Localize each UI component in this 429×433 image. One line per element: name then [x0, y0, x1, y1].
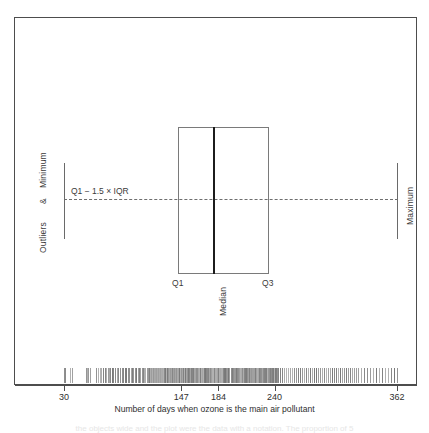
x-axis-ticklabel: 362: [389, 392, 404, 402]
rug-tick: [308, 368, 309, 383]
rug-tick: [280, 368, 281, 383]
x-axis-tick: [275, 385, 276, 391]
rug-tick: [314, 368, 315, 383]
rug-tick: [140, 368, 141, 383]
rug-tick: [361, 368, 362, 383]
rug-tick: [292, 368, 293, 383]
rug-tick: [334, 368, 335, 383]
rug-tick: [338, 368, 339, 383]
x-axis-ticklabel: 30: [59, 392, 69, 402]
rug-tick: [336, 368, 337, 383]
rug-tick: [394, 368, 395, 383]
rug-tick: [296, 368, 297, 383]
rug-tick: [300, 368, 301, 383]
rug-tick: [310, 368, 311, 383]
rug-tick: [358, 368, 359, 383]
rug-tick: [354, 368, 355, 383]
x-axis-tick: [64, 385, 65, 391]
rug-tick: [106, 368, 107, 383]
rug-tick: [318, 368, 319, 383]
rug-tick: [72, 368, 73, 383]
x-axis-line: [15, 385, 417, 386]
rug-tick: [346, 368, 347, 383]
rug-tick: [123, 368, 124, 383]
rug-tick: [90, 368, 91, 383]
whisker-right-cap: [397, 163, 398, 239]
rug-tick: [312, 368, 313, 383]
rug-tick: [382, 368, 383, 383]
x-axis-tick: [397, 385, 398, 391]
rug-tick: [397, 368, 398, 383]
label-lower-fence: Q1 − 1.5 × IQR: [69, 186, 131, 196]
rug-tick: [320, 368, 321, 383]
rug-tick: [110, 368, 111, 383]
rug-tick: [284, 368, 285, 383]
boxplot-figure: Minimum & Outliers Maximum Q1 − 1.5 × IQ…: [0, 0, 429, 433]
rug-tick: [145, 368, 146, 383]
rug-tick: [364, 368, 365, 383]
label-q3: Q3: [262, 278, 274, 288]
rug-tick: [278, 368, 279, 383]
box-rect: [178, 127, 269, 274]
rug-tick: [340, 368, 341, 383]
rug-tick: [70, 368, 71, 383]
rug-tick: [356, 368, 357, 383]
rug-tick: [332, 368, 333, 383]
x-axis-tick: [218, 385, 219, 391]
rug-tick: [120, 368, 121, 383]
caption-ghost: the objects wide and the plot were the d…: [0, 424, 429, 433]
rug-tick: [288, 368, 289, 383]
x-axis-ticklabel: 184: [211, 392, 226, 402]
rug-tick: [330, 368, 331, 383]
rug-tick: [316, 368, 317, 383]
rug-tick: [379, 368, 380, 383]
rug-plot: [15, 368, 416, 385]
rug-tick: [373, 368, 374, 383]
rug-tick: [88, 368, 89, 383]
rug-tick: [367, 368, 368, 383]
whisker-left-cap: [64, 163, 65, 239]
label-minimum: Minimum: [38, 152, 48, 188]
x-axis-tick: [181, 385, 182, 391]
rug-tick: [302, 368, 303, 383]
rug-tick: [324, 368, 325, 383]
rug-tick: [370, 368, 371, 383]
median-line: [213, 127, 215, 274]
rug-tick: [391, 368, 392, 383]
label-outliers: Outliers: [38, 222, 48, 253]
rug-tick: [328, 368, 329, 383]
rug-tick: [115, 368, 116, 383]
rug-tick: [290, 368, 291, 383]
rug-tick: [352, 368, 353, 383]
rug-tick: [344, 368, 345, 383]
rug-tick: [326, 368, 327, 383]
label-ampersand: &: [38, 198, 48, 204]
rug-tick: [96, 368, 97, 383]
rug-tick: [304, 368, 305, 383]
rug-tick: [98, 368, 99, 383]
rug-tick: [129, 368, 130, 383]
rug-tick: [101, 368, 102, 383]
rug-tick: [113, 368, 114, 383]
x-axis-title: Number of days when ozone is the main ai…: [0, 404, 429, 414]
rug-tick: [286, 368, 287, 383]
label-median: Median: [218, 287, 228, 316]
rug-tick: [126, 368, 127, 383]
rug-tick: [306, 368, 307, 383]
rug-tick: [342, 368, 343, 383]
rug-tick: [65, 368, 66, 383]
rug-tick: [385, 368, 386, 383]
rug-tick: [322, 368, 323, 383]
rug-tick: [376, 368, 377, 383]
rug-tick: [348, 368, 349, 383]
rug-tick: [298, 368, 299, 383]
rug-tick: [282, 368, 283, 383]
rug-tick: [103, 368, 104, 383]
rug-tick: [294, 368, 295, 383]
rug-tick: [133, 368, 134, 383]
rug-tick: [388, 368, 389, 383]
label-q1: Q1: [172, 278, 184, 288]
x-axis-ticklabel: 240: [267, 392, 282, 402]
label-maximum: Maximum: [405, 187, 415, 225]
rug-tick: [350, 368, 351, 383]
